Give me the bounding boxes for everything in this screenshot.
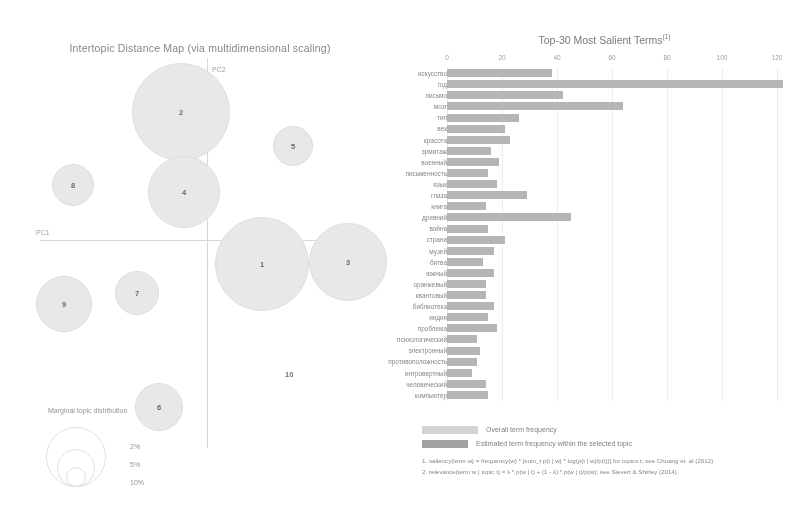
term-row[interactable]: век [400,123,809,134]
term-row[interactable]: оранжевый [400,279,809,290]
x-tick-60: 60 [608,54,615,61]
topic-bubble-2[interactable]: 2 [132,63,230,161]
term-label[interactable]: страна [247,234,447,245]
x-tick-100: 100 [717,54,728,61]
term-row[interactable]: электронный [400,345,809,356]
term-label[interactable]: глаза [247,190,447,201]
topic-bubble-4[interactable]: 4 [148,156,220,228]
x-tick-40: 40 [553,54,560,61]
barchart-rows: искусствогодписьмомозгтипвеккрасотаэрмит… [400,68,809,401]
term-label[interactable]: век [247,123,447,134]
term-row[interactable]: война [400,223,809,234]
term-row[interactable]: язык [400,179,809,190]
topic-bubble-7[interactable]: 7 [115,271,159,315]
term-row[interactable]: интровертный [400,368,809,379]
term-label[interactable]: человеческий [247,379,447,390]
bar-topic-frequency [447,69,552,77]
topic-bubble-label: 7 [116,289,158,298]
term-row[interactable]: индия [400,312,809,323]
topic-bubble-6[interactable]: 6 [135,383,183,431]
term-row[interactable]: год [400,79,809,90]
legend-label-overall: Overall term frequency [486,424,557,435]
term-row[interactable]: музей [400,246,809,257]
bar-topic-frequency [447,302,494,310]
x-tick-0: 0 [445,54,449,61]
term-label[interactable]: электронный [247,345,447,356]
term-label[interactable]: эрмитаж [247,146,447,157]
term-label[interactable]: письмо [247,90,447,101]
term-label[interactable]: психологический [247,334,447,345]
term-row[interactable]: письмо [400,90,809,101]
barchart-title: Top-30 Most Salient Terms(1) [400,33,809,46]
term-label[interactable]: музей [247,246,447,257]
term-label[interactable]: мозг [247,101,447,112]
term-label[interactable]: красота [247,135,447,146]
barchart-title-text: Top-30 Most Salient Terms [538,34,662,46]
bar-topic-frequency [447,236,505,244]
footnote-2: 2. relevance(term w | topic t) = λ * p(w… [422,467,809,478]
legend-row-overall: Overall term frequency [422,424,809,438]
term-label[interactable]: квантовый [247,290,447,301]
bar-topic-frequency [447,147,491,155]
term-label[interactable]: книга [247,201,447,212]
term-row[interactable]: библиотека [400,301,809,312]
bar-topic-frequency [447,125,505,133]
term-row[interactable]: страна [400,234,809,245]
bar-topic-frequency [447,269,494,277]
x-tick-120: 120 [772,54,783,61]
term-row[interactable]: проблема [400,323,809,334]
topic-bubble-9[interactable]: 9 [36,276,92,332]
term-label[interactable]: интровертный [247,368,447,379]
term-row[interactable]: письменность [400,168,809,179]
term-row[interactable]: битва [400,257,809,268]
term-label[interactable]: письменность [247,168,447,179]
bar-topic-frequency [447,114,519,122]
bar-topic-frequency [447,202,486,210]
term-row[interactable]: искусство [400,68,809,79]
bar-topic-frequency [447,280,486,288]
term-row[interactable]: компьютер [400,390,809,401]
term-row[interactable]: квантовый [400,290,809,301]
term-row[interactable]: глаза [400,190,809,201]
term-label[interactable]: искусство [247,68,447,79]
term-row[interactable]: противоположность [400,356,809,367]
term-row[interactable]: древний [400,212,809,223]
pc2-axis-label: PC2 [212,66,226,73]
pyldavis-visualization: Intertopic Distance Map (via multidimens… [0,0,809,513]
term-row[interactable]: военный [400,157,809,168]
bar-topic-frequency [447,258,483,266]
term-label[interactable]: война [247,223,447,234]
term-row[interactable]: эрмитаж [400,146,809,157]
marginal-circle-10pct [46,427,106,487]
term-label[interactable]: противоположность [247,356,447,367]
term-row[interactable]: книга [400,201,809,212]
term-row[interactable]: человеческий [400,379,809,390]
bar-topic-frequency [447,136,510,144]
term-label[interactable]: битва [247,257,447,268]
topic-bubble-8[interactable]: 8 [52,164,94,206]
bar-topic-frequency [447,158,499,166]
term-row[interactable]: мозг [400,101,809,112]
term-label[interactable]: компьютер [247,390,447,401]
term-label[interactable]: язык [247,179,447,190]
term-label[interactable]: древний [247,212,447,223]
topic-bubble-label: 2 [133,108,229,117]
term-label[interactable]: индия [247,312,447,323]
term-row[interactable]: южный [400,268,809,279]
marginal-distribution-title: Marginal topic distribution [48,407,127,414]
term-label[interactable]: тип [247,112,447,123]
term-row[interactable]: тип [400,112,809,123]
term-label[interactable]: оранжевый [247,279,447,290]
term-label[interactable]: военный [247,157,447,168]
bar-topic-frequency [447,324,497,332]
term-row[interactable]: психологический [400,334,809,345]
term-label[interactable]: библиотека [247,301,447,312]
term-label[interactable]: год [247,79,447,90]
bar-topic-frequency [447,358,477,366]
salient-terms-panel: Top-30 Most Salient Terms(1) 02040608010… [400,0,809,513]
term-label[interactable]: южный [247,268,447,279]
term-row[interactable]: красота [400,135,809,146]
bar-topic-frequency [447,291,486,299]
term-label[interactable]: проблема [247,323,447,334]
bar-topic-frequency [447,335,477,343]
